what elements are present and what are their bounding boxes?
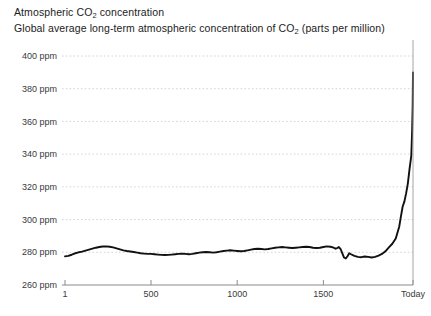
y-tick-label-380: 380 ppm — [22, 84, 57, 94]
x-axis-labels: 150010001500Today — [62, 289, 425, 299]
y-tick-label-320: 320 ppm — [22, 182, 57, 192]
y-tick-label-300: 300 ppm — [22, 215, 57, 225]
x-tick-label-1000: 1000 — [227, 289, 247, 299]
x-axis — [62, 280, 413, 285]
x-tick-label-1500: 1500 — [313, 289, 333, 299]
y-tick-label-340: 340 ppm — [22, 149, 57, 159]
chart-figure: Atmospheric CO2 concentration Global ave… — [0, 0, 431, 316]
x-tick-label-1: 1 — [62, 289, 67, 299]
gridlines — [62, 56, 413, 252]
x-tick-label-500: 500 — [143, 289, 158, 299]
chart-plot-area: 400 ppm380 ppm360 ppm340 ppm320 ppm300 p… — [0, 0, 431, 316]
y-tick-label-400: 400 ppm — [22, 51, 57, 61]
y-tick-label-280: 280 ppm — [22, 247, 57, 257]
y-tick-label-260: 260 ppm — [22, 280, 57, 290]
y-tick-label-360: 360 ppm — [22, 117, 57, 127]
x-tick-label-Today: Today — [401, 289, 426, 299]
co2-concentration-line — [65, 72, 413, 258]
y-axis-labels: 400 ppm380 ppm360 ppm340 ppm320 ppm300 p… — [22, 51, 57, 290]
